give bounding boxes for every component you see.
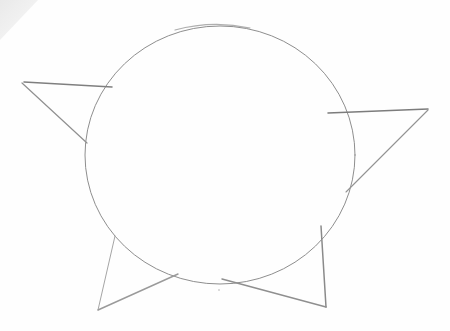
spike-bottom-right	[222, 226, 326, 307]
spike-right	[328, 109, 428, 192]
pencil-sketch	[0, 0, 450, 331]
sketch-circle	[85, 26, 355, 284]
spike-left	[22, 82, 112, 143]
